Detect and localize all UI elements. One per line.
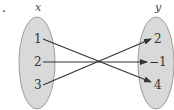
mapping-arrows (43, 39, 151, 85)
domain-set-label: x (35, 1, 42, 14)
domain-element-2: 2 (34, 55, 42, 69)
mapping-diagram: . x 1 2 3 y 2 −1 4 (0, 0, 174, 110)
codomain-element-neg1: −1 (149, 55, 167, 69)
domain-element-3: 3 (34, 78, 42, 92)
codomain-element-2: 2 (154, 32, 162, 46)
stray-mark: . (2, 1, 6, 15)
domain-set: x 1 2 3 (19, 1, 55, 109)
codomain-element-4: 4 (154, 78, 162, 92)
codomain-set: y 2 −1 4 (138, 1, 174, 109)
domain-element-1: 1 (34, 32, 42, 46)
codomain-set-label: y (154, 1, 162, 14)
